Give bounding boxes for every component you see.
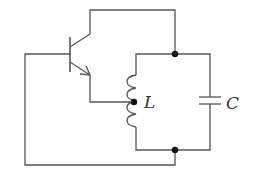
capacitor-label: C <box>226 93 239 113</box>
inductor-label: L <box>143 92 155 112</box>
circuit-diagram: L C <box>0 0 259 186</box>
node-dot-top <box>172 51 178 57</box>
collector-wire <box>70 10 175 54</box>
emitter-wire <box>70 62 134 102</box>
tank-top-wire <box>136 54 210 97</box>
node-dot-bottom <box>172 147 178 153</box>
node-dot-inductor-tap <box>131 99 137 105</box>
